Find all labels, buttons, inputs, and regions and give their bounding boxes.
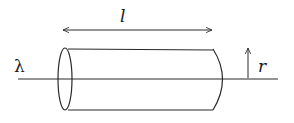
lambda-label: λ — [14, 58, 25, 75]
cylinder-diagram — [0, 0, 294, 123]
length-label: l — [120, 8, 125, 25]
cylinder-top-edge — [68, 49, 213, 50]
radius-label: r — [258, 58, 266, 75]
